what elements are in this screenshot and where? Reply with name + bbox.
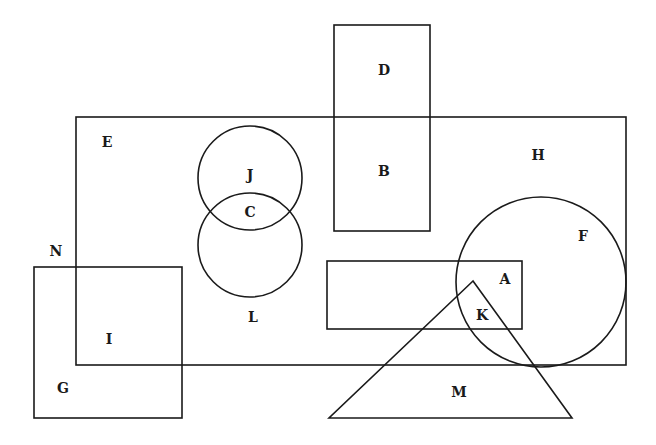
diagram-canvas bbox=[0, 0, 656, 445]
tall-rectangle bbox=[334, 25, 430, 231]
label-j: J bbox=[247, 167, 254, 183]
circle-right bbox=[456, 197, 626, 367]
label-f: F bbox=[578, 228, 588, 244]
label-h: H bbox=[531, 147, 544, 163]
label-m: M bbox=[451, 384, 467, 400]
label-c: C bbox=[244, 204, 255, 220]
label-k: K bbox=[476, 307, 488, 323]
label-i: I bbox=[106, 331, 113, 347]
wide-rectangle bbox=[327, 261, 522, 329]
label-a: A bbox=[500, 271, 511, 287]
label-n: N bbox=[50, 243, 63, 259]
label-b: B bbox=[378, 163, 390, 179]
label-d: D bbox=[378, 62, 390, 78]
label-g: G bbox=[57, 380, 69, 396]
label-l: L bbox=[248, 309, 258, 325]
label-e: E bbox=[102, 134, 113, 150]
